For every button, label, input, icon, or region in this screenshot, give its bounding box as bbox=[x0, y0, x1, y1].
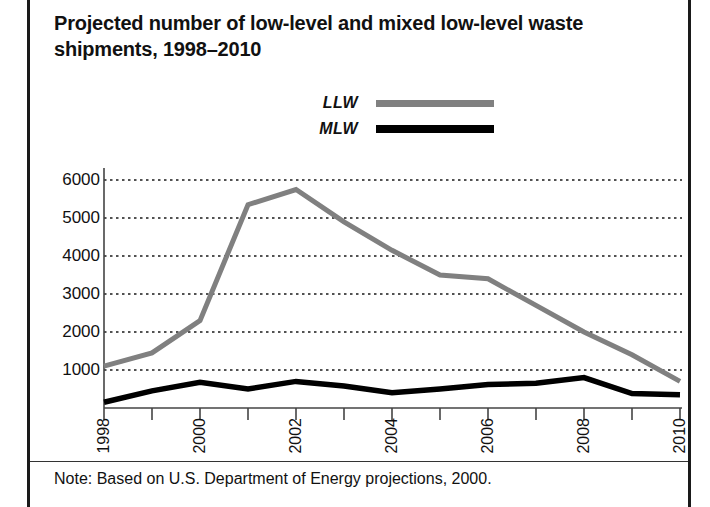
x-tick-2004: 2004 bbox=[383, 418, 401, 454]
x-tick-2006: 2006 bbox=[479, 418, 497, 454]
note-separator bbox=[30, 461, 688, 462]
y-tick-3000: 3000 bbox=[62, 284, 100, 304]
y-tick-6000: 6000 bbox=[62, 170, 100, 190]
series-line-llw bbox=[104, 190, 680, 382]
y-tick-2000: 2000 bbox=[62, 322, 100, 342]
series-line-mlw bbox=[104, 378, 680, 403]
x-tick-1998: 1998 bbox=[95, 418, 113, 454]
chart-plot-area: 100020003000400050006000 199820002002200… bbox=[0, 0, 710, 507]
y-tick-4000: 4000 bbox=[62, 246, 100, 266]
x-tick-2008: 2008 bbox=[575, 418, 593, 454]
x-tick-2002: 2002 bbox=[287, 418, 305, 454]
chart-note: Note: Based on U.S. Department of Energy… bbox=[54, 470, 492, 488]
x-tick-2010: 2010 bbox=[671, 418, 689, 454]
y-tick-1000: 1000 bbox=[62, 360, 100, 380]
y-tick-5000: 5000 bbox=[62, 208, 100, 228]
x-tick-2000: 2000 bbox=[191, 418, 209, 454]
